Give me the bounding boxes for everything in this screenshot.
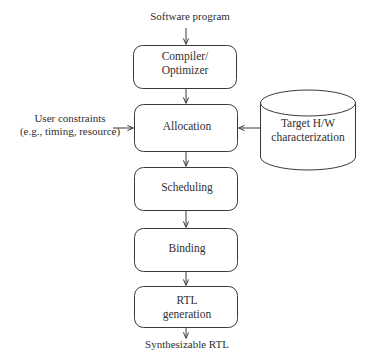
flowchart-diagram: Software program User constraints (e.g.,… bbox=[0, 0, 372, 358]
node-compiler-optimizer bbox=[134, 46, 237, 89]
node-rtl-generation bbox=[135, 287, 238, 328]
node-binding bbox=[135, 229, 238, 272]
node-target-hw-characterization bbox=[261, 90, 356, 170]
cylinder-top-ellipse bbox=[261, 90, 356, 116]
node-allocation bbox=[135, 105, 238, 152]
node-scheduling bbox=[135, 168, 238, 211]
diagram-canvas bbox=[0, 0, 372, 358]
